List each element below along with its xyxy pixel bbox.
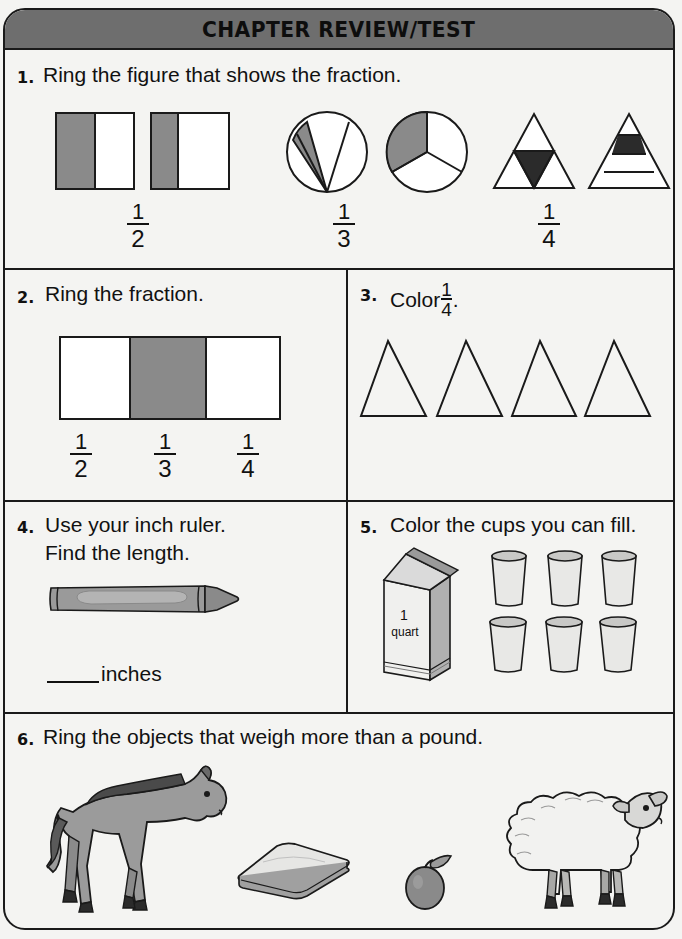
cup-2[interactable]: [542, 548, 588, 610]
svg-text:quart: quart: [391, 625, 419, 639]
problem-6-number: 6.: [17, 730, 34, 749]
fraction-label-1-2: 1 2: [121, 202, 155, 251]
problem-5: 5. Color the cups you can fill. 1 quart: [346, 500, 673, 712]
problem-6-text: Ring the objects that weigh more than a …: [43, 725, 483, 749]
color-triangle-2[interactable]: [434, 338, 506, 420]
problem-4-answer[interactable]: inches: [47, 662, 162, 686]
problem-3: 3. Color14.: [346, 268, 673, 500]
page-title: CHAPTER REVIEW/TEST: [202, 17, 475, 42]
color-triangle-4[interactable]: [582, 338, 654, 420]
choice-fraction-1-3[interactable]: 1 3: [148, 432, 182, 481]
worksheet-page: CHAPTER REVIEW/TEST 1. Ring the figure t…: [0, 0, 682, 939]
figure-square-half-shaded[interactable]: [55, 112, 135, 190]
fraction-numerator: 1: [64, 432, 98, 451]
fraction-denominator: 4: [231, 457, 265, 481]
fraction-denominator: 3: [148, 457, 182, 481]
cup-1[interactable]: [486, 548, 532, 610]
fraction-denominator: 3: [327, 227, 361, 251]
fraction-denominator: 2: [121, 227, 155, 251]
figure-crayon[interactable]: [47, 578, 247, 620]
problem-5-text: Color the cups you can fill.: [390, 513, 636, 537]
problem-2: 2. Ring the fraction. 1 2 1 3: [5, 268, 346, 500]
answer-blank[interactable]: [47, 665, 99, 683]
figure-circle-equal-thirds[interactable]: [385, 110, 469, 194]
object-sheep[interactable]: [491, 770, 671, 920]
figure-milk-carton: 1 quart: [372, 544, 468, 684]
problem-4-text-line1: Use your inch ruler.: [45, 513, 226, 537]
figure-bar-thirds-middle-shaded[interactable]: [59, 336, 281, 420]
fraction-denominator: 4: [532, 227, 566, 251]
figure-circle-unequal-thirds[interactable]: [285, 110, 369, 194]
problem-3-text-after: .: [453, 288, 459, 311]
choice-fraction-1-4[interactable]: 1 4: [231, 432, 265, 481]
object-book[interactable]: [233, 840, 353, 900]
problem-2-text: Ring the fraction.: [45, 282, 204, 306]
problem-4: 4. Use your inch ruler. Find the length.…: [5, 500, 346, 712]
object-plum[interactable]: [401, 852, 457, 912]
figure-square-third-shaded[interactable]: [150, 112, 230, 190]
problem-3-text-before: Color: [390, 288, 440, 311]
fraction-label-1-3: 1 3: [327, 202, 361, 251]
chapter-banner: CHAPTER REVIEW/TEST: [5, 10, 673, 50]
color-triangle-3[interactable]: [510, 338, 582, 420]
problem-4-number: 4.: [17, 518, 34, 537]
fraction-denominator: 2: [64, 457, 98, 481]
problem-1-number: 1.: [17, 68, 34, 87]
problem-3-text: Color14.: [390, 282, 459, 318]
cup-6[interactable]: [594, 614, 642, 676]
fraction-numerator: 1: [121, 202, 155, 221]
object-horse[interactable]: [35, 760, 235, 920]
problem-3-number: 3.: [360, 286, 377, 305]
fraction-numerator: 1: [441, 282, 452, 297]
fraction-numerator: 1: [148, 432, 182, 451]
problem-4-text-line2: Find the length.: [45, 541, 190, 565]
problem-1: 1. Ring the figure that shows the fracti…: [5, 50, 673, 268]
choice-fraction-1-2[interactable]: 1 2: [64, 432, 98, 481]
fraction-label-1-4: 1 4: [532, 202, 566, 251]
problem-2-number: 2.: [17, 288, 34, 307]
problem-5-number: 5.: [360, 518, 377, 537]
problem-1-text: Ring the figure that shows the fraction.: [43, 63, 401, 87]
problem-3-fraction: 14: [441, 282, 452, 318]
color-triangle-1[interactable]: [358, 338, 430, 420]
cup-3[interactable]: [596, 548, 642, 610]
cup-5[interactable]: [540, 614, 588, 676]
cup-4[interactable]: [484, 614, 532, 676]
fraction-numerator: 1: [327, 202, 361, 221]
worksheet-sheet: CHAPTER REVIEW/TEST 1. Ring the figure t…: [3, 8, 675, 930]
svg-text:1: 1: [400, 607, 408, 623]
fraction-numerator: 1: [532, 202, 566, 221]
fraction-numerator: 1: [231, 432, 265, 451]
fraction-denominator: 4: [441, 301, 452, 318]
problem-6: 6. Ring the objects that weigh more than…: [5, 712, 673, 930]
figure-triangle-four-parts[interactable]: [492, 112, 576, 192]
answer-unit-label: inches: [101, 662, 162, 685]
figure-triangle-bands[interactable]: [587, 112, 671, 192]
